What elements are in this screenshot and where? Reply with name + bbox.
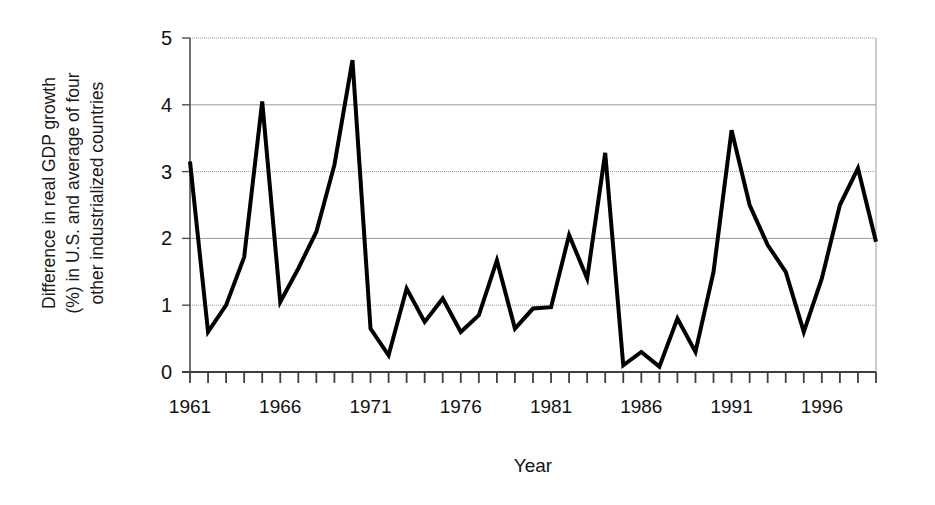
data-series-line (190, 60, 876, 367)
y-tick-label-0: 0 (138, 362, 172, 382)
x-axis-title: Year (190, 455, 876, 477)
x-minor-ticks (190, 372, 876, 383)
y-tick-label-2: 2 (138, 228, 172, 248)
x-tick-label-1986: 1986 (606, 397, 676, 416)
x-tick-label-1961: 1961 (155, 397, 225, 416)
y-tick-label-3: 3 (138, 162, 172, 182)
x-tick-label-1996: 1996 (787, 397, 857, 416)
gdp-growth-difference-chart: Difference in real GDP growth (%) in U.S… (0, 0, 935, 505)
y-tick-label-1: 1 (138, 295, 172, 315)
y-ticks (182, 38, 190, 372)
x-tick-label-1971: 1971 (336, 397, 406, 416)
gridlines (190, 38, 876, 372)
x-tick-label-1991: 1991 (697, 397, 767, 416)
y-tick-label-4: 4 (138, 95, 172, 115)
x-tick-label-1976: 1976 (426, 397, 496, 416)
x-tick-label-1966: 1966 (245, 397, 315, 416)
plot-area (0, 0, 935, 505)
y-tick-label-5: 5 (138, 28, 172, 48)
x-tick-label-1981: 1981 (516, 397, 586, 416)
